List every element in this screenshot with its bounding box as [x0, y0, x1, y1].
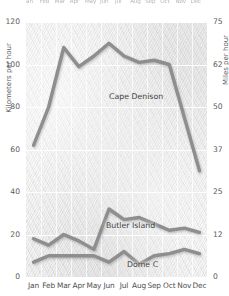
bottom-month-axis: JanFebMarAprMayJunJulAugSepOctNovDec: [26, 281, 207, 293]
series-label-butler-island: Butler Island: [106, 221, 155, 230]
right-axis-title: Miles per hour: [222, 20, 229, 100]
month-label: May: [86, 281, 101, 290]
month-label: Feb: [41, 281, 56, 290]
left-tick-label: 0: [15, 273, 20, 281]
top-month-label: Mar: [55, 0, 65, 4]
top-clipped-month-axis: JanFebMarAprMayJunJulAugSepOctNovDec: [26, 0, 207, 4]
left-axis-title: Kilometers per hour: [5, 38, 13, 118]
series-label-cape-denison: Cape Denison: [109, 92, 163, 101]
month-label: Aug: [132, 281, 147, 290]
right-tick-label: 12: [213, 231, 223, 239]
right-tick-label: 25: [213, 188, 223, 196]
series-label-dome-c: Dome C: [127, 260, 158, 269]
top-month-label: Jun: [100, 0, 108, 4]
top-month-label: Feb: [40, 0, 50, 4]
month-label: Mar: [56, 281, 71, 290]
right-tick-label: 0: [213, 273, 218, 281]
month-label: Oct: [162, 281, 177, 290]
left-tick-label: 20: [10, 231, 20, 239]
top-month-label: Jul: [115, 0, 121, 4]
month-label: Jun: [101, 281, 116, 290]
series-line-cape-denison: [34, 43, 200, 171]
top-month-label: Aug: [130, 0, 141, 4]
top-month-label: Oct: [160, 0, 169, 4]
wind-speed-line-chart: JanFebMarAprMayJunJulAugSepOctNovDec Cap…: [0, 0, 229, 296]
right-tick-label: 37: [213, 146, 223, 154]
right-tick-label: 50: [213, 103, 223, 111]
top-month-label: May: [85, 0, 96, 4]
plot-area: Cape Denison Butler Island Dome C: [26, 22, 207, 277]
left-tick-label: 120: [6, 18, 21, 26]
month-label: Jul: [116, 281, 131, 290]
month-label: Jan: [26, 281, 41, 290]
series-line-dome-c: [34, 249, 200, 264]
top-month-label: Apr: [70, 0, 79, 4]
top-month-label: Nov: [175, 0, 186, 4]
top-month-label: Dec: [190, 0, 201, 4]
left-tick-label: 60: [10, 146, 20, 154]
series-lines: [26, 22, 207, 277]
top-month-label: Sep: [145, 0, 155, 4]
top-month-label: Jan: [26, 0, 33, 4]
month-label: Sep: [147, 281, 162, 290]
month-label: Nov: [177, 281, 192, 290]
month-label: Apr: [71, 281, 86, 290]
month-label: Dec: [192, 281, 207, 290]
left-tick-label: 40: [10, 188, 20, 196]
